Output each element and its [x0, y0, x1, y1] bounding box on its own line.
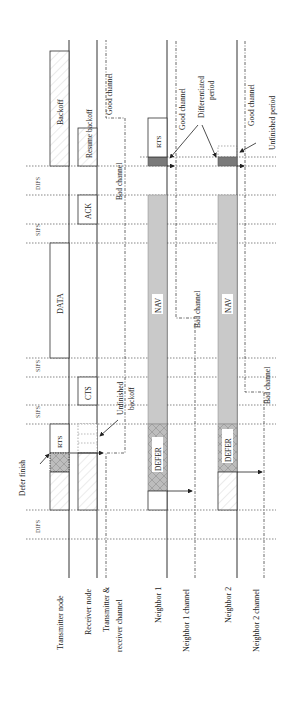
n2-differentiated-block [218, 157, 237, 166]
rts-label: RTS [56, 435, 64, 448]
unfinished-backoff-label-2: backoff [127, 387, 136, 410]
n1-differentiated-block [148, 157, 167, 166]
unfinished-period-arrow [240, 143, 256, 152]
cts-label: CTS [84, 386, 93, 400]
lane-label-tr-channel-1: Transmitter & [102, 586, 111, 632]
resume-backoff-label: Resume backoff [85, 109, 94, 158]
sifs-label: SIFS [35, 224, 41, 236]
lane-label-neighbor1-channel: Neighbor 1 channel [182, 588, 191, 652]
tr-good-channel-label: Good channel [105, 73, 114, 115]
unfinished-backoff-label-1: Unfinished [116, 381, 125, 415]
lane-label-neighbor2-channel: Neighbor 2 channel [252, 588, 261, 652]
defer-finish-arrow [40, 454, 49, 464]
n1-bad-channel-label: Bad channel [193, 291, 202, 328]
lane-label-neighbor1: Neighbor 1 [154, 587, 163, 623]
n1-backoff-block [148, 491, 167, 510]
n2-backoff-block [218, 472, 237, 510]
sifs-label: SIFS [35, 360, 41, 372]
n1-nav-label: NAV [154, 297, 163, 313]
tr-bad-channel-label: Bad channel [115, 163, 124, 200]
lane-label-neighbor2: Neighbor 2 [224, 587, 233, 623]
n1-defer-label: DEFER [154, 447, 163, 471]
data-label: DATA [56, 293, 65, 314]
differentiated-arrow-2 [202, 125, 216, 157]
receiver-backoff-block [78, 453, 97, 510]
interval-labels: DIFS SIFS SIFS SIFS DIFS [35, 177, 41, 533]
sifs-label: SIFS [35, 406, 41, 418]
n1-good-channel-label: Good channel [178, 88, 187, 130]
unfinished-backoff-block [78, 424, 97, 453]
ack-label: ACK [84, 203, 93, 219]
defer-finish-label: Defer finish [18, 460, 27, 496]
difs-label: DIFS [35, 177, 41, 190]
n2-good-channel-label: Good channel [247, 84, 256, 126]
differentiated-period-label-2: period [207, 81, 216, 100]
lane-label-transmitter: Transmitter node [56, 595, 65, 650]
defer-finish-block [50, 453, 69, 472]
lane-label-receiver: Receiver node [84, 589, 93, 635]
differentiated-period-label-1: Differentiated [197, 76, 206, 118]
tr-channel-line [106, 40, 125, 578]
difs-label: DIFS [35, 520, 41, 533]
n2-defer-label: DEFER [224, 438, 233, 462]
csma-ca-timing-diagram: DIFS SIFS SIFS SIFS DIFS Backoff DATA RT… [0, 0, 290, 702]
transmitter-backoff-block [50, 472, 69, 510]
n1-rts-label: RTS [155, 135, 163, 148]
n2-nav-label: NAV [224, 297, 233, 313]
n2-bad-channel-label: Bad channel [263, 367, 272, 404]
n2-unfinished-period-block [218, 146, 237, 157]
unfinished-backoff-arrow [100, 420, 118, 436]
backoff-label: Backoff [56, 99, 65, 125]
unfinished-period-label: Unfinished period [268, 95, 277, 150]
lane-label-tr-channel-2: receiver channel [115, 599, 124, 652]
